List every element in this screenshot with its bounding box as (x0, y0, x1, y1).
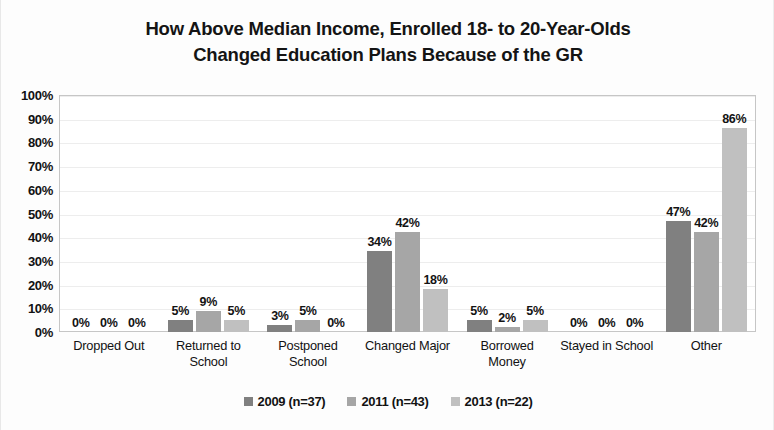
chart-title-line-1: How Above Median Income, Enrolled 18- to… (145, 18, 630, 39)
chart-legend: 2009 (n=37)2011 (n=43)2013 (n=22) (1, 394, 774, 409)
bar[interactable] (666, 221, 691, 332)
bar[interactable] (196, 311, 221, 332)
x-axis-tick-line: Other (656, 338, 756, 354)
bar-group: 47%42%86% (656, 95, 756, 332)
bar[interactable] (495, 327, 520, 332)
y-axis-tick: 100% (1, 88, 53, 103)
bar-value-label: 0% (626, 316, 643, 330)
bar-value-label: 42% (694, 216, 718, 230)
legend-label: 2011 (n=43) (361, 394, 428, 409)
legend-item[interactable]: 2009 (n=37) (244, 394, 326, 409)
x-axis-tick-line: School (258, 354, 358, 370)
x-axis-tick-line: Postponed (258, 338, 358, 354)
bar[interactable] (267, 325, 292, 332)
bar-value-label: 9% (200, 295, 217, 309)
bar-group: 5%9%5% (159, 95, 259, 332)
bar-value-label: 47% (666, 205, 690, 219)
bar[interactable] (694, 232, 719, 332)
legend-swatch-icon (451, 397, 460, 406)
y-axis: 100%90%80%70%60%50%40%30%20%10%0% (1, 95, 53, 332)
y-axis-tick: 10% (1, 301, 53, 316)
bar-value-label: 0% (72, 316, 89, 330)
y-axis-tick: 50% (1, 206, 53, 221)
bar-value-label: 5% (526, 304, 543, 318)
bar[interactable] (367, 251, 392, 332)
bar-value-label: 18% (423, 273, 447, 287)
bar-value-label: 3% (271, 309, 288, 323)
chart-title: How Above Median Income, Enrolled 18- to… (61, 16, 715, 68)
x-axis-tick-line: Borrowed (457, 338, 557, 354)
x-axis-tick-line: Stayed in School (557, 338, 657, 354)
legend-swatch-icon (244, 397, 253, 406)
bars-layer: 0%0%0%5%9%5%3%5%0%34%42%18%5%2%5%0%0%0%4… (59, 95, 756, 332)
x-axis-tick-line: School (159, 354, 259, 370)
bar[interactable] (224, 320, 249, 332)
bar-value-label: 34% (367, 235, 391, 249)
x-axis-tick: Stayed in School (557, 338, 657, 354)
x-axis-tick-line: Money (457, 354, 557, 370)
bar-value-label: 5% (172, 304, 189, 318)
bar-value-label: 0% (128, 316, 145, 330)
bar-group: 34%42%18% (358, 95, 458, 332)
y-axis-tick: 60% (1, 182, 53, 197)
y-axis-tick: 0% (1, 325, 53, 340)
x-axis-tick: Returned toSchool (159, 338, 259, 370)
y-axis-tick: 80% (1, 135, 53, 150)
y-axis-tick: 90% (1, 111, 53, 126)
bar[interactable] (722, 128, 747, 332)
x-axis: Dropped OutReturned toSchoolPostponedSch… (59, 338, 756, 384)
x-axis-tick: Changed Major (358, 338, 458, 354)
legend-label: 2013 (n=22) (465, 394, 533, 409)
bar-group: 0%0%0% (557, 95, 657, 332)
x-axis-tick: Other (656, 338, 756, 354)
bar[interactable] (423, 289, 448, 332)
y-axis-tick: 30% (1, 253, 53, 268)
bar[interactable] (295, 320, 320, 332)
bar-group: 3%5%0% (258, 95, 358, 332)
bar[interactable] (467, 320, 492, 332)
bar-value-label: 5% (228, 304, 245, 318)
y-axis-tick: 70% (1, 159, 53, 174)
chart-title-line-2: Changed Education Plans Because of the G… (61, 42, 715, 68)
x-axis-tick-line: Changed Major (358, 338, 458, 354)
bar-value-label: 0% (598, 316, 615, 330)
chart-page: How Above Median Income, Enrolled 18- to… (0, 0, 774, 430)
bar-value-label: 2% (498, 311, 515, 325)
bar-value-label: 0% (100, 316, 117, 330)
bar-value-label: 86% (722, 112, 746, 126)
x-axis-tick: Dropped Out (59, 338, 159, 354)
bar-value-label: 5% (299, 304, 316, 318)
x-axis-tick-line: Returned to (159, 338, 259, 354)
y-axis-tick: 20% (1, 277, 53, 292)
legend-swatch-icon (347, 397, 356, 406)
legend-label: 2009 (n=37) (258, 394, 326, 409)
x-axis-tick-line: Dropped Out (59, 338, 159, 354)
bar-value-label: 0% (327, 316, 344, 330)
bar[interactable] (523, 320, 548, 332)
x-axis-tick: BorrowedMoney (457, 338, 557, 370)
bar[interactable] (395, 232, 420, 332)
bar-value-label: 42% (395, 216, 419, 230)
bar-group: 0%0%0% (59, 95, 159, 332)
bar-value-label: 0% (570, 316, 587, 330)
bar[interactable] (168, 320, 193, 332)
y-axis-tick: 40% (1, 230, 53, 245)
legend-item[interactable]: 2013 (n=22) (451, 394, 533, 409)
x-axis-tick: PostponedSchool (258, 338, 358, 370)
bar-value-label: 5% (470, 304, 487, 318)
bar-group: 5%2%5% (457, 95, 557, 332)
legend-item[interactable]: 2011 (n=43) (347, 394, 428, 409)
